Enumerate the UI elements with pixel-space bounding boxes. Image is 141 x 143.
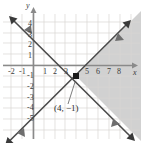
y-tick-label--2: -2 xyxy=(27,83,34,91)
y-tick-label--1: -1 xyxy=(27,72,34,80)
x-tick-label-5: 5 xyxy=(85,68,89,76)
y-tick-label--3: -3 xyxy=(27,94,34,102)
intersection-point-marker xyxy=(73,73,79,79)
x-tick-label-6: 6 xyxy=(96,68,100,76)
y-tick-label-4: 4 xyxy=(28,20,32,28)
y-axis-label: y xyxy=(26,2,30,10)
y-tick-label-3: 3 xyxy=(28,31,32,39)
x-axis-label: x xyxy=(133,69,137,77)
x-tick-label--2: -2 xyxy=(8,68,15,76)
y-tick-label-1: 1 xyxy=(28,52,32,60)
y-tick-label--5: -5 xyxy=(27,115,34,123)
intersection-point-label: (4, −1) xyxy=(54,104,79,113)
x-tick-label-8: 8 xyxy=(117,68,121,76)
y-tick-label--4: -4 xyxy=(27,104,34,112)
x-tick-label-3: 3 xyxy=(64,68,68,76)
graph-figure: -2 -1 1 2 3 5 6 7 8 4 3 2 1 -1 -2 -3 -4 … xyxy=(0,0,141,143)
x-tick-label-1: 1 xyxy=(43,68,47,76)
y-tick-label-2: 2 xyxy=(28,41,32,49)
x-tick-label--1: -1 xyxy=(19,68,26,76)
x-tick-label-2: 2 xyxy=(53,68,57,76)
x-tick-label-7: 7 xyxy=(107,68,111,76)
